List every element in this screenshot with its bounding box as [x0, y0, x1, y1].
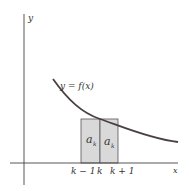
- x-axis-label: x: [173, 166, 178, 175]
- svg-text:a: a: [104, 135, 111, 148]
- tick-label-k: k: [97, 166, 102, 176]
- curve-label: y = f(x): [59, 81, 94, 91]
- svg-text:k: k: [93, 140, 97, 147]
- svg-text:a: a: [86, 133, 93, 146]
- y-axis-label: y: [27, 13, 34, 23]
- svg-text:k: k: [111, 142, 115, 149]
- tick-label-k-minus-1: k − 1: [71, 166, 95, 176]
- diagram-canvas: y x y = f(x) a k a k k − 1 k k + 1: [0, 0, 189, 191]
- tick-label-k-plus-1: k + 1: [110, 166, 134, 176]
